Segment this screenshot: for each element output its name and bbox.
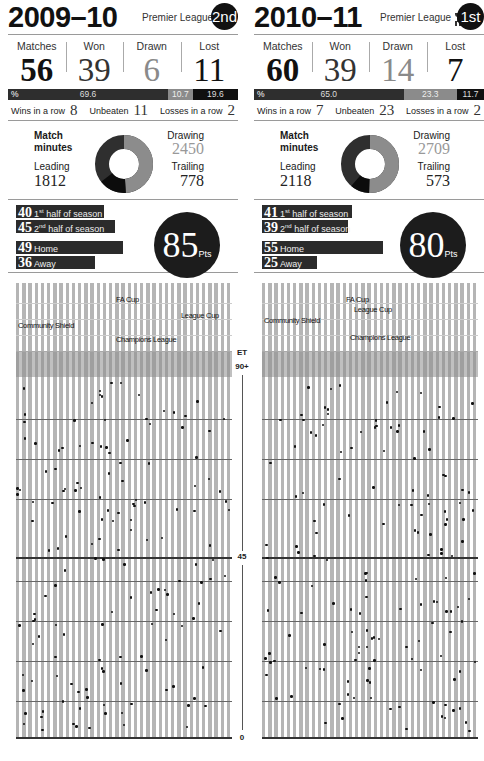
- stat-value: 39: [312, 52, 370, 88]
- match-stats: Matches 60 Won 39 Drawn 14 Lost 7: [254, 35, 484, 89]
- unbeaten: Unbeaten11: [89, 102, 148, 119]
- competition-label-community-shield: Community Shield: [18, 321, 74, 330]
- gridline-40: [262, 581, 478, 582]
- pct-lost-segment: 11.7: [457, 89, 484, 100]
- goal-dot: [373, 636, 376, 639]
- goal-dot: [452, 709, 455, 712]
- goal-dot: [140, 655, 143, 658]
- goal-dot: [396, 430, 399, 433]
- points-unit: Pts: [444, 249, 457, 259]
- goal-dot: [354, 659, 357, 662]
- goal-dot: [461, 489, 464, 492]
- gridline-5: [262, 701, 478, 702]
- goal-dot: [399, 608, 402, 611]
- trailing-label: Trailing: [172, 161, 204, 172]
- goal-dot: [198, 602, 201, 605]
- goal-dot: [274, 576, 277, 579]
- league-name: Premier League: [142, 12, 213, 23]
- goal-dot: [468, 598, 471, 601]
- points-label: Home: [280, 244, 304, 254]
- match-minutes-title: Matchminutes: [34, 130, 72, 154]
- goal-dot: [459, 707, 462, 710]
- gridline-60: [16, 459, 232, 460]
- competition-label-champions-league: Champions League: [116, 335, 176, 344]
- minutes-donut-chart: [94, 134, 154, 194]
- wins-in-a-row: Wins in a row8: [11, 102, 78, 119]
- goal-dot: [88, 727, 91, 730]
- points-first-half: 401st half of season: [16, 205, 104, 218]
- percent-sign: %: [11, 89, 19, 100]
- goal-dot: [108, 452, 111, 455]
- league-position-badge: 1st: [457, 3, 484, 30]
- goal-dot: [228, 509, 231, 512]
- goal-dot: [307, 386, 310, 389]
- goal-dot: [102, 670, 105, 673]
- goal-dot: [110, 382, 113, 385]
- goal-dot: [105, 446, 108, 449]
- goal-dot: [350, 447, 353, 450]
- ordinal: st: [285, 208, 290, 214]
- goal-dot: [157, 588, 160, 591]
- points-value: 36: [18, 255, 32, 270]
- goal-dot: [108, 472, 111, 475]
- goal-dot: [473, 572, 476, 575]
- goal-dot: [297, 551, 300, 554]
- goal-dot: [195, 456, 198, 459]
- points-label: half of season: [46, 209, 102, 219]
- gridline-60: [262, 459, 478, 460]
- goal-dot: [413, 457, 416, 460]
- goal-dot: [42, 710, 45, 713]
- gridline-15: [262, 661, 478, 662]
- stat-label: Won: [312, 40, 370, 52]
- streak-label: Wins in a row: [257, 106, 311, 116]
- goal-dot: [196, 400, 199, 403]
- stat-drawn: Drawn 14: [369, 40, 427, 89]
- goal-dot: [444, 717, 447, 720]
- trailing-value: 573: [426, 172, 450, 190]
- streak-label: Wins in a row: [11, 106, 65, 116]
- points-value: 55: [264, 240, 278, 255]
- goal-dot: [99, 496, 102, 499]
- goal-dot: [24, 437, 27, 440]
- leading-label: Leading: [280, 161, 316, 172]
- goal-dot: [219, 630, 222, 633]
- points-first-half: 411st half of season: [262, 205, 352, 218]
- goal-dot: [269, 661, 272, 664]
- goal-dot: [178, 580, 181, 583]
- streaks: Wins in a row8 Unbeaten11 Losses in a ro…: [8, 100, 238, 120]
- gridline-50: [262, 499, 478, 500]
- stat-lost: Lost 11: [181, 40, 239, 89]
- goal-dot: [323, 643, 326, 646]
- cropped-footer: [0, 745, 484, 761]
- match-stats: Matches 56 Won 39 Drawn 6 Lost 11: [8, 35, 238, 89]
- baseline: [16, 737, 232, 739]
- gridline-75: [262, 419, 478, 420]
- goal-dot: [16, 493, 19, 496]
- goal-dot: [193, 510, 196, 513]
- goal-dot: [375, 425, 378, 428]
- goal-dot: [461, 540, 464, 543]
- goal-dot: [76, 482, 79, 485]
- goal-dot: [65, 535, 68, 538]
- points-value: 41: [264, 205, 278, 220]
- gridline-15: [16, 661, 232, 662]
- goal-dot: [132, 503, 135, 506]
- goal-dot: [366, 629, 369, 632]
- points-value: 49: [18, 240, 32, 255]
- goal-dot: [145, 669, 148, 672]
- stat-value: 60: [254, 52, 312, 88]
- stat-label: Matches: [8, 40, 66, 52]
- goal-dot: [267, 609, 270, 612]
- goal-dot: [368, 667, 371, 670]
- goal-dot: [444, 523, 447, 526]
- goal-dot: [366, 679, 369, 682]
- goal-dot: [61, 447, 64, 450]
- points-away: 25Away: [262, 256, 317, 269]
- goal-dot: [278, 581, 281, 584]
- gridline-50: [16, 499, 232, 500]
- goal-dot: [386, 401, 389, 404]
- streak-label: Unbeaten: [89, 106, 128, 116]
- goal-dot: [348, 514, 351, 517]
- goal-dot: [107, 509, 110, 512]
- goal-dot: [200, 581, 203, 584]
